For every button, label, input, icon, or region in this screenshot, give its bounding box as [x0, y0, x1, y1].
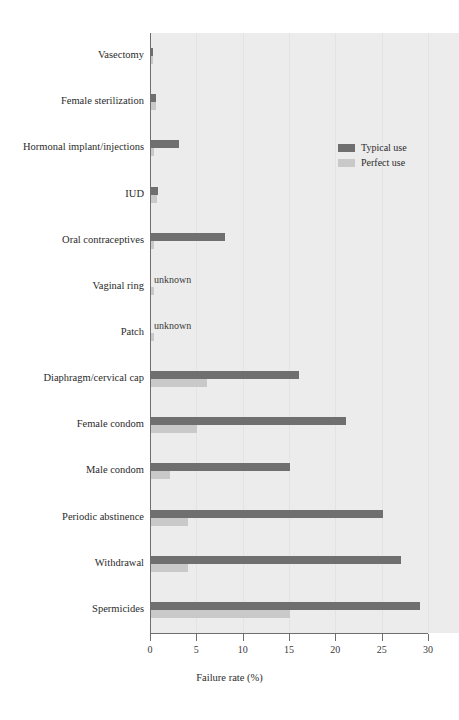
x-tick: [196, 634, 197, 641]
category-label: Male condom: [0, 464, 144, 475]
category-label: IUD: [0, 188, 144, 199]
category-label: Patch: [0, 326, 144, 337]
legend-label-typical-use: Typical use: [361, 142, 407, 153]
category-label: Oral contraceptives: [0, 234, 144, 245]
gridline: [196, 33, 197, 633]
plot-area-right-bleed: [428, 33, 459, 633]
x-axis-title: Failure rate (%): [0, 672, 459, 683]
bar-typical-use: [151, 140, 179, 148]
gridline: [289, 33, 290, 633]
bar-typical-use: [151, 510, 383, 518]
x-tick-label: 10: [238, 644, 248, 655]
legend-item-typical-use: Typical use: [338, 142, 407, 153]
x-tick-label: 25: [377, 644, 387, 655]
bar-perfect-use: [151, 195, 157, 203]
category-label: Vasectomy: [0, 49, 144, 60]
x-tick-label: 0: [148, 644, 153, 655]
bar-typical-use: [151, 463, 290, 471]
bar-typical-use: [151, 187, 158, 195]
bar-perfect-use: [151, 471, 170, 479]
category-label: Female condom: [0, 418, 144, 429]
bar-perfect-use: [151, 425, 197, 433]
bar-typical-use: [151, 94, 156, 102]
bar-perfect-use: [151, 241, 154, 249]
category-label: Periodic abstinence: [0, 511, 144, 522]
x-tick-label: 20: [330, 644, 340, 655]
x-tick-label: 15: [284, 644, 294, 655]
gridline: [428, 33, 429, 633]
category-label: Vaginal ring: [0, 280, 144, 291]
gridline: [335, 33, 336, 633]
unknown-value-label: unknown: [154, 320, 191, 331]
bar-perfect-use: [151, 518, 188, 526]
category-label: Spermicides: [0, 603, 144, 614]
x-tick: [335, 634, 336, 641]
bar-typical-use: [151, 233, 225, 241]
x-tick-label: 30: [423, 644, 433, 655]
x-tick: [289, 634, 290, 641]
bar-typical-use: [151, 371, 299, 379]
bar-perfect-use: [151, 564, 188, 572]
failure-rate-bar-chart: 051015202530 VasectomyFemale sterilizati…: [0, 0, 459, 720]
unknown-value-label: unknown: [154, 274, 191, 285]
bar-typical-use: [151, 417, 346, 425]
x-tick: [150, 634, 151, 641]
category-label: Hormonal implant/injections: [0, 141, 144, 152]
bar-typical-use: [151, 48, 153, 56]
legend-swatch-perfect-use: [338, 159, 355, 167]
bar-perfect-use: [151, 148, 154, 156]
legend-item-perfect-use: Perfect use: [338, 157, 407, 168]
bar-perfect-use: [151, 56, 153, 64]
x-tick: [428, 634, 429, 641]
category-label: Female sterilization: [0, 95, 144, 106]
bar-perfect-use: [151, 102, 156, 110]
legend: Typical use Perfect use: [338, 142, 407, 172]
bar-perfect-use: [151, 610, 290, 618]
x-tick-label: 5: [194, 644, 199, 655]
category-label: Diaphragm/cervical cap: [0, 372, 144, 383]
gridline: [243, 33, 244, 633]
bar-typical-use: [151, 602, 420, 610]
bar-perfect-use: [151, 287, 154, 295]
legend-label-perfect-use: Perfect use: [361, 157, 405, 168]
x-tick: [243, 634, 244, 641]
bar-perfect-use: [151, 379, 207, 387]
legend-swatch-typical-use: [338, 144, 355, 152]
bar-typical-use: [151, 556, 401, 564]
x-tick: [382, 634, 383, 641]
category-label: Withdrawal: [0, 557, 144, 568]
gridline: [382, 33, 383, 633]
bar-perfect-use: [151, 333, 154, 341]
